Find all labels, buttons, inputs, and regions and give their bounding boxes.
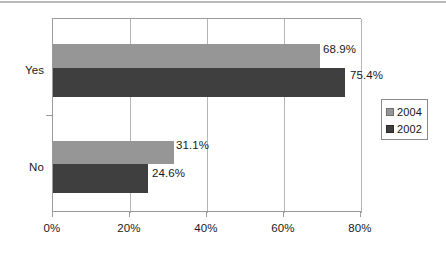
legend-entry-2004: 2004 bbox=[386, 104, 427, 120]
bar-no-2002 bbox=[53, 164, 148, 193]
x-axis-line bbox=[52, 211, 362, 212]
x-tick-0 bbox=[52, 212, 53, 217]
legend-label-2002: 2002 bbox=[397, 124, 422, 135]
legend-label-2004: 2004 bbox=[397, 107, 422, 118]
plot-area bbox=[52, 18, 361, 212]
x-tick-label-0: 0% bbox=[30, 222, 74, 234]
bar-chart: 68.9% 75.4% 31.1% 24.6% 0% 20% 40% 60% 8… bbox=[0, 0, 446, 259]
bar-label-no-2002: 24.6% bbox=[152, 167, 185, 179]
bar-label-yes-2004: 68.9% bbox=[323, 43, 356, 55]
x-tick-label-40: 40% bbox=[184, 222, 228, 234]
legend-swatch-icon-2004 bbox=[386, 108, 394, 116]
x-tick-40 bbox=[206, 212, 207, 217]
x-tick-20 bbox=[129, 212, 130, 217]
legend: 2004 2002 bbox=[381, 99, 428, 140]
bar-label-yes-2002: 75.4% bbox=[350, 69, 383, 81]
x-tick-label-20: 20% bbox=[107, 222, 151, 234]
y-axis-category-tick bbox=[46, 115, 52, 116]
bar-yes-2002 bbox=[53, 68, 345, 97]
x-tick-label-80: 80% bbox=[338, 222, 382, 234]
x-tick-60 bbox=[283, 212, 284, 217]
x-tick-80 bbox=[360, 212, 361, 217]
category-label-yes: Yes bbox=[4, 64, 44, 76]
gridline-80 bbox=[361, 19, 362, 213]
bar-label-no-2004: 31.1% bbox=[176, 139, 209, 151]
bar-no-2004 bbox=[53, 141, 174, 164]
bar-yes-2004 bbox=[53, 44, 320, 68]
x-tick-label-60: 60% bbox=[261, 222, 305, 234]
legend-entry-2002: 2002 bbox=[386, 121, 427, 137]
scan-artifact-line bbox=[0, 1, 446, 3]
legend-swatch-icon-2002 bbox=[386, 125, 394, 133]
category-label-no: No bbox=[4, 161, 44, 173]
